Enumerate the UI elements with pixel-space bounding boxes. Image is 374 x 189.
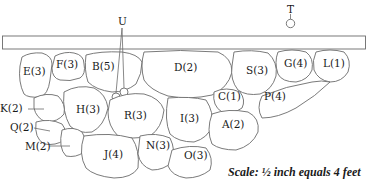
label-l: L(1) (323, 57, 345, 69)
marker-u-label: U (118, 15, 127, 27)
label-s: S(3) (246, 64, 268, 76)
label-a: A(2) (221, 118, 244, 130)
label-k: K(2) (0, 102, 23, 114)
stone-a (209, 110, 258, 150)
label-e: E(3) (23, 65, 46, 77)
label-n: N(3) (146, 139, 170, 151)
label-o: O(3) (184, 149, 207, 161)
label-d: D(2) (174, 61, 197, 73)
stone-wall-diagram: T (0, 0, 374, 189)
top-beam (3, 36, 366, 49)
label-q: Q(2) (10, 121, 33, 133)
stone-k (34, 94, 64, 122)
label-j: J(4) (103, 148, 123, 160)
marker-t: T (286, 3, 294, 28)
marker-t-label: T (287, 3, 294, 15)
label-r: R(3) (124, 109, 147, 121)
scale-note: Scale: ½ inch equals 4 feet (228, 165, 361, 179)
label-g: G(4) (284, 57, 307, 69)
label-m: M(2) (25, 140, 51, 152)
label-c: C(1) (218, 90, 241, 102)
label-p: P(4) (264, 90, 286, 102)
label-i: I(3) (180, 112, 199, 124)
marker-t-circle-icon (286, 19, 294, 27)
label-h: H(3) (76, 103, 100, 115)
label-f: F(3) (56, 58, 78, 70)
label-b: B(5) (92, 60, 115, 72)
